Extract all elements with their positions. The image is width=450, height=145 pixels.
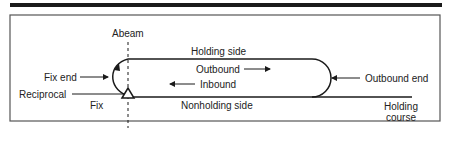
label-holding-side: Holding side — [191, 46, 246, 57]
fix-triangle-icon — [122, 88, 134, 98]
label-outbound-end: Outbound end — [365, 73, 428, 84]
label-inbound: Inbound — [200, 79, 236, 90]
label-nonholding-side: Nonholding side — [181, 100, 253, 111]
label-abeam: Abeam — [112, 28, 144, 39]
fix-end-turn — [113, 59, 128, 95]
label-holding-course-line1: Holding — [376, 101, 426, 112]
label-fix: Fix — [90, 100, 103, 111]
outbound-end-turn — [312, 59, 331, 97]
label-fix-end: Fix end — [44, 72, 77, 83]
label-outbound: Outbound — [196, 64, 240, 75]
label-holding-course: Holding course — [376, 101, 426, 123]
label-reciprocal: Reciprocal — [19, 89, 66, 100]
top-rule — [10, 3, 442, 7]
label-holding-course-line2: course — [376, 112, 426, 123]
